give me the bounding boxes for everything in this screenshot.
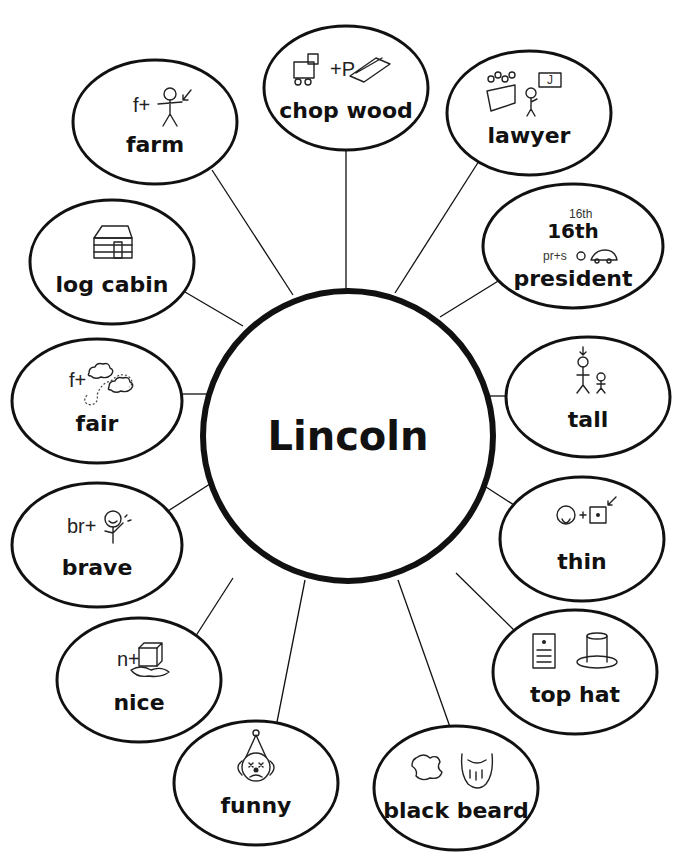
node-label: fair [76,411,119,436]
node-label: brave [62,555,133,580]
node-label: funny [221,793,292,818]
node-label: farm [126,132,184,157]
node-label: chop wood [279,98,413,123]
node-label: tall [568,407,608,432]
svg-text:f+: f+ [69,369,86,391]
oval-log-cabin [30,200,194,324]
node-nice: n+nice [57,618,221,742]
oval-black-beard [374,726,538,850]
word-web-diagram: f+farm+Pchop woodJlawyer16thpr+s16thpres… [0,0,686,859]
connector-thin [486,487,514,505]
node-farm: f+farm [73,60,237,184]
svg-text:n+: n+ [117,648,140,670]
center-node: Lincoln [203,291,493,581]
oval-top-hat [493,610,657,734]
node-sublabel: 16th [547,219,599,243]
connector-log-cabin [185,292,243,326]
node-16th-president: 16thpr+s16thpresident [483,184,663,308]
node-tall: tall [506,337,670,457]
node-black-beard: black beard [374,726,538,850]
connector-top-hat [456,573,516,632]
node-label: thin [557,549,606,574]
node-label: black beard [383,798,529,823]
svg-text:pr+s: pr+s [543,249,567,263]
node-fair: f+fair [12,339,182,463]
node-label: nice [113,690,164,715]
connector-farm [212,170,293,295]
svg-text:J: J [547,73,553,87]
oval-farm [73,60,237,184]
oval-chop-wood [264,26,428,150]
connector-lawyer [395,161,479,293]
center-label: Lincoln [267,413,428,459]
oval-funny [174,721,338,845]
node-label: log cabin [56,272,169,297]
connector-brave [168,482,213,511]
oval-brave [12,483,182,607]
node-chop-wood: +Pchop wood [264,26,428,150]
svg-text:br+: br+ [67,515,96,537]
node-lawyer: Jlawyer [447,51,611,175]
icon-text: f+ [133,94,150,116]
node-brave: br+brave [12,483,182,607]
oval-thin [500,477,664,601]
oval-nice [57,618,221,742]
connector-black-beard [398,580,450,727]
connector-funny [277,580,305,722]
node-funny: funny [174,721,338,845]
node-thin: thin [500,477,664,601]
node-log-cabin: log cabin [30,200,194,324]
node-label: president [513,266,632,291]
node-top-hat: top hat [493,610,657,734]
oval-tall [506,337,670,457]
node-label: lawyer [488,123,571,148]
node-label: top hat [530,682,621,707]
